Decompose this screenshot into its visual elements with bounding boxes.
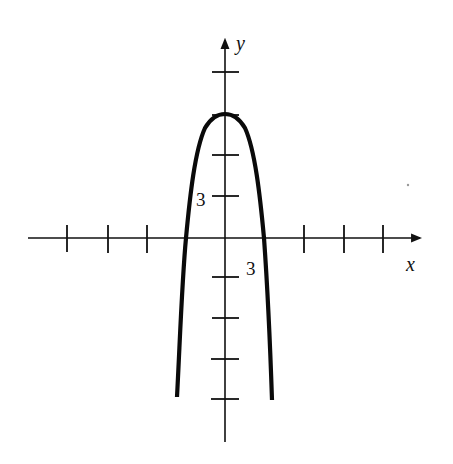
- y-axis-label: y: [234, 32, 245, 55]
- chart-plot: y x 3 3: [0, 0, 453, 464]
- stray-speck: [407, 184, 409, 186]
- x-axis-label: x: [405, 253, 415, 275]
- y-tick-label-3: 3: [196, 189, 206, 210]
- x-tick-label-3: 3: [246, 258, 256, 279]
